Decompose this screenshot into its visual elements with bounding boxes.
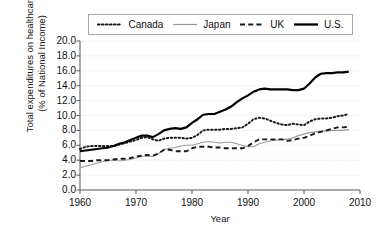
plot-area [0,0,385,237]
series-line-japan [80,130,349,168]
series-line-us [80,72,349,152]
healthcare-expenditure-chart: Canada Japan UK U.S. Total expenditures … [0,0,385,237]
